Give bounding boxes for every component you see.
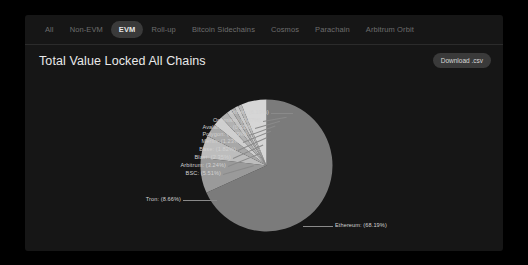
card-header: Total Value Locked All Chains Download .…	[25, 46, 503, 80]
tab-evm[interactable]: EVM	[111, 21, 144, 38]
slice-label-blast: Blast: (2.35%)	[153, 154, 231, 160]
page-title: Total Value Locked All Chains	[39, 54, 206, 68]
tab-cosmos[interactable]: Cosmos	[263, 21, 307, 38]
tab-non-evm[interactable]: Non-EVM	[62, 21, 111, 38]
leader-line-ethereum	[303, 226, 333, 227]
download-csv-button[interactable]: Download .csv	[433, 53, 491, 68]
tab-roll-up[interactable]: Roll-up	[143, 21, 183, 38]
pie-chart-area: Others (6.19%) Optimism: (0.87%) Avalanc…	[25, 81, 503, 251]
tab-parachain[interactable]: Parachain	[307, 21, 358, 38]
tab-bitcoin-sidechains[interactable]: Bitcoin Sidechains	[184, 21, 263, 38]
tab-all[interactable]: All	[37, 21, 62, 38]
tvl-card: All Non-EVM EVM Roll-up Bitcoin Sidechai…	[25, 15, 503, 251]
slice-label-merlin: Merlin: (1.23%)	[163, 138, 241, 144]
leader-line-tron	[183, 200, 217, 201]
slice-label-avalanche: Avalanche: (0.93%)	[175, 124, 253, 130]
slice-label-optimism: Optimism: (0.87%)	[183, 117, 261, 123]
slice-label-bsc: BSC: (5.51%)	[143, 170, 221, 176]
leader-line-others	[271, 113, 293, 114]
slice-label-tron: Tron: (8.66%)	[121, 196, 181, 202]
slice-label-polygon: Polygon: (0.99%)	[169, 131, 247, 137]
slice-label-arbitrum: Arbitrum: (3.24%)	[148, 162, 226, 168]
slice-label-others: Others (6.19%)	[191, 109, 269, 115]
slice-label-ethereum: Ethereum: (68.19%)	[335, 222, 387, 228]
tab-arbitrum-orbit[interactable]: Arbitrum Orbit	[358, 21, 422, 38]
slice-label-base: Base: (1.82%)	[158, 146, 236, 152]
category-tab-bar[interactable]: All Non-EVM EVM Roll-up Bitcoin Sidechai…	[25, 15, 503, 45]
screenshot-root: All Non-EVM EVM Roll-up Bitcoin Sidechai…	[0, 0, 528, 265]
